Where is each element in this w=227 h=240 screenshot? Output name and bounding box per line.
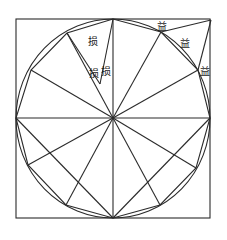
- label-loss-mid-left: 损: [89, 67, 99, 79]
- gain-construction-line-b: [198, 20, 211, 70]
- gain-construction-line-a: [161, 20, 211, 32]
- label-gain-top: 益: [157, 20, 167, 32]
- label-loss-mid-right: 损: [101, 65, 111, 77]
- circle-square-dissection-diagram: 损 损 损 益 益 益: [0, 0, 227, 240]
- label-gain-right: 益: [200, 65, 210, 77]
- label-gain-mid: 益: [180, 37, 190, 49]
- label-loss-top: 损: [88, 35, 98, 47]
